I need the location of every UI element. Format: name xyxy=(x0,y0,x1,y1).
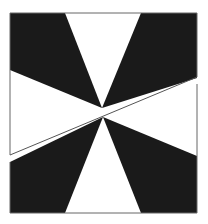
lower-piece xyxy=(10,84,197,213)
figure-canvas xyxy=(0,0,208,224)
upper-split-edge xyxy=(10,77,197,155)
lower-right-dark-wedge xyxy=(103,117,197,213)
upper-piece xyxy=(10,13,197,155)
upper-left-dark-wedge xyxy=(10,13,102,108)
geometric-figure xyxy=(0,0,208,224)
lower-left-dark-wedge xyxy=(10,117,103,213)
upper-right-dark-wedge xyxy=(102,13,197,108)
